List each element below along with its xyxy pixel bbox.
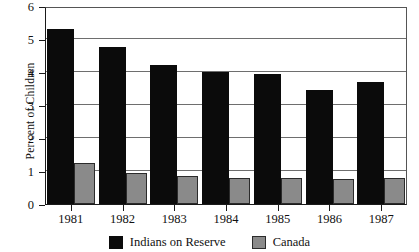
bar-chart-figure: Per cent of Children 0123456 19811982198… [0, 0, 419, 252]
x-axis-tick-label: 1982 [110, 212, 135, 227]
legend-item: Canada [252, 235, 310, 250]
y-axis-tick [39, 205, 45, 206]
x-axis-tick [329, 205, 330, 211]
plot-area [45, 7, 407, 205]
bar-canada [384, 178, 405, 204]
grey-square-icon [252, 236, 266, 249]
x-axis-tick-label: 1986 [317, 212, 342, 227]
legend-label: Indians on Reserve [130, 235, 226, 250]
x-axis-tick-label: 1987 [369, 212, 394, 227]
bar-canada [333, 179, 354, 204]
x-axis-tick [226, 205, 227, 211]
x-axis-tick [381, 205, 382, 211]
x-axis-tick [123, 205, 124, 211]
legend-label: Canada [273, 235, 310, 250]
bar-group [356, 8, 408, 204]
bar-group [149, 8, 201, 204]
chart-legend: Indians on ReserveCanada [0, 233, 419, 252]
bar-canada [126, 173, 147, 204]
bar-indians-on-reserve [47, 29, 74, 204]
bar-group [201, 8, 253, 204]
x-axis-tick [174, 205, 175, 211]
x-axis-tick-label: 1985 [265, 212, 290, 227]
bar-indians-on-reserve [306, 90, 333, 204]
bar-indians-on-reserve [150, 65, 177, 204]
x-axis-tick-label: 1981 [58, 212, 83, 227]
bar-group [305, 8, 357, 204]
bar-group [46, 8, 98, 204]
bar-canada [177, 176, 198, 204]
bar-indians-on-reserve [99, 47, 126, 204]
bar-group [253, 8, 305, 204]
bar-canada [229, 178, 250, 204]
bar-indians-on-reserve [357, 82, 384, 204]
bar-canada [281, 178, 302, 204]
legend-item: Indians on Reserve [109, 235, 226, 250]
x-axis-tick [278, 205, 279, 211]
bar-indians-on-reserve [202, 72, 229, 204]
bar-indians-on-reserve [254, 74, 281, 204]
bar-group [98, 8, 150, 204]
x-axis-tick [71, 205, 72, 211]
black-square-icon [109, 236, 123, 249]
x-axis-tick-label: 1984 [214, 212, 239, 227]
x-axis-tick-label: 1983 [162, 212, 187, 227]
bar-canada [74, 163, 95, 204]
